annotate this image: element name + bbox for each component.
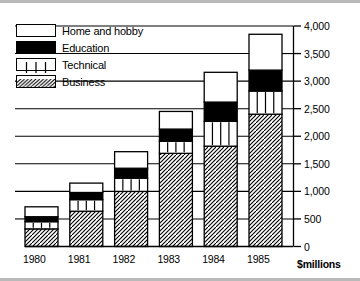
legend-swatch-business [16, 75, 56, 88]
bar-segment [115, 152, 148, 169]
bar-segment [204, 102, 237, 121]
bar-segment [204, 72, 237, 102]
bar-segment [115, 191, 148, 246]
bar-segment [70, 183, 103, 192]
legend-label-business: Business [62, 77, 105, 88]
legend-label-education: Education [62, 43, 109, 54]
legend-swatch-education [16, 41, 56, 54]
bar-segment [249, 34, 282, 70]
y-tick-label: 1,500 [304, 159, 330, 170]
bar-segment [159, 129, 192, 141]
diagonal-hatch-icon [17, 79, 55, 88]
y-axis [294, 26, 302, 247]
x-tick-label: 1983 [157, 254, 180, 265]
x-tick-label: 1980 [23, 254, 46, 265]
bar-segment [70, 192, 103, 199]
vertical-stripe-icon [17, 62, 55, 73]
axis-unit-label: $millions [297, 259, 341, 270]
y-tick-label: 3,500 [304, 49, 330, 60]
bar-segment [159, 111, 192, 129]
legend-label-technical: Technical [62, 60, 106, 71]
legend-swatch-home-and-hobby [16, 24, 56, 37]
y-tick-label: 0 [304, 242, 310, 253]
legend-label-home-and-hobby: Home and hobby [62, 26, 143, 37]
y-tick-label: 3,000 [304, 76, 330, 87]
bar-segment [249, 70, 282, 91]
y-tick-label: 2,500 [304, 104, 330, 115]
y-tick-label: 1,000 [304, 186, 330, 197]
bar-segment [25, 217, 58, 222]
bar-segment [25, 207, 58, 217]
x-tick-label: 1982 [113, 254, 136, 265]
legend-swatch-technical [16, 58, 56, 71]
bar-segment [204, 146, 237, 246]
x-tick-label: 1985 [247, 254, 270, 265]
chart-frame: Home and hobby Education Technical Busin… [0, 0, 360, 281]
bar-segment [249, 114, 282, 246]
bar-segment [70, 211, 103, 246]
bar-segment [115, 168, 148, 178]
y-tick-label: 2,000 [304, 131, 330, 142]
bar-segment [159, 153, 192, 246]
bar-segment [25, 229, 58, 247]
y-tick-label: 4,000 [304, 21, 330, 32]
x-tick-label: 1981 [68, 254, 91, 265]
x-tick-label: 1984 [202, 254, 225, 265]
y-tick-label: 500 [304, 214, 321, 225]
